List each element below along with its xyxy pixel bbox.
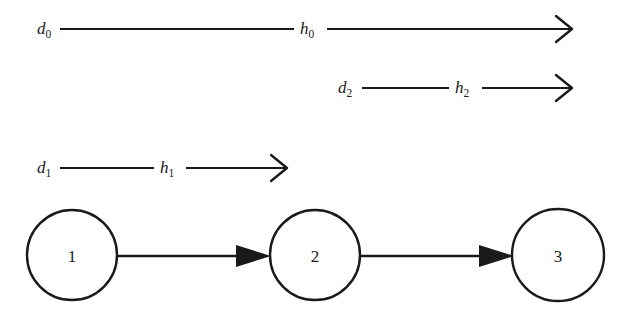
label-h1-subscript: 1 bbox=[169, 167, 175, 179]
node-2[interactable]: 2 bbox=[270, 210, 360, 300]
node-3-label: 3 bbox=[554, 247, 563, 266]
arrowhead-edge-2-3-icon bbox=[479, 245, 514, 267]
node-1-label: 1 bbox=[68, 247, 77, 266]
label-h1: h1 bbox=[160, 158, 175, 179]
diagram-svg: ================= --> d0 h0 ============… bbox=[0, 0, 636, 322]
label-h0-subscript: 0 bbox=[309, 28, 315, 40]
label-d1: d1 bbox=[37, 158, 52, 179]
label-h2: h2 bbox=[455, 78, 470, 99]
node-1[interactable]: 1 bbox=[27, 210, 117, 300]
diagram-canvas: ================= --> d0 h0 ============… bbox=[0, 0, 636, 322]
label-d0: d0 bbox=[37, 19, 52, 40]
arrow-row-d2-h2: d2 h2 bbox=[338, 75, 572, 101]
label-d2-subscript: 2 bbox=[347, 87, 353, 99]
label-h0: h0 bbox=[300, 19, 315, 40]
edge-node2-to-node3 bbox=[360, 245, 514, 267]
node-3[interactable]: 3 bbox=[512, 209, 604, 301]
label-d0-subscript: 0 bbox=[46, 28, 52, 40]
arrowhead-edge-1-2-icon bbox=[236, 245, 271, 267]
node-2-label: 2 bbox=[311, 247, 320, 266]
label-h2-subscript: 2 bbox=[464, 87, 470, 99]
arrow-row-d0-h0: d0 h0 bbox=[37, 16, 572, 42]
label-d2: d2 bbox=[338, 78, 353, 99]
label-d1-subscript: 1 bbox=[46, 167, 52, 179]
edge-node1-to-node2 bbox=[117, 245, 271, 267]
arrow-row-d1-h1: d1 h1 bbox=[37, 155, 287, 181]
